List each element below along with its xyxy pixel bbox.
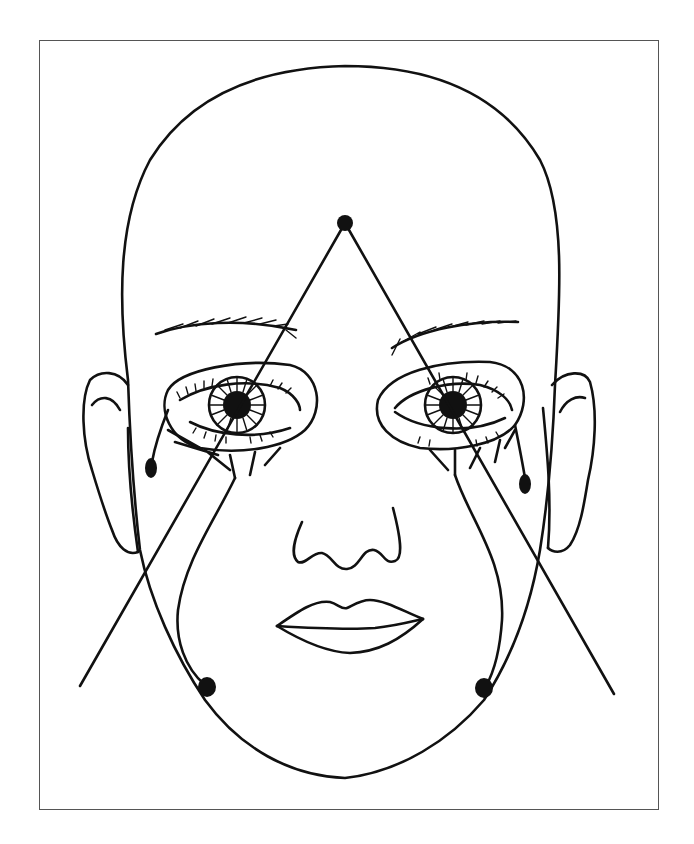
apex-marker <box>337 215 353 231</box>
right-tear-paths <box>430 425 531 698</box>
nose <box>294 508 401 569</box>
mouth <box>277 600 423 653</box>
face-illustration <box>0 0 694 844</box>
left-eyebrow <box>156 317 296 338</box>
right-ear-inner <box>560 397 585 412</box>
reference-triangle <box>80 215 614 694</box>
left-ear-inner <box>92 398 120 410</box>
